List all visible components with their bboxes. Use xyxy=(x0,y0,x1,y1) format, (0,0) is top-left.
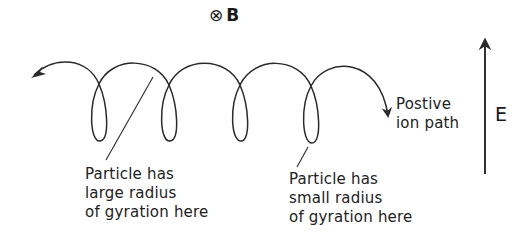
b-field-label: ⊗B xyxy=(209,5,239,25)
annotation-line: Particle has xyxy=(85,165,209,184)
annotation-line: small radius xyxy=(289,189,413,208)
annotation-line: of gyration here xyxy=(85,203,209,222)
b-field-text: B xyxy=(226,5,239,25)
leader-line-small-radius xyxy=(297,147,308,167)
ion-path-label: Postive ion path xyxy=(396,95,459,133)
small-radius-annotation: Particle has small radius of gyration he… xyxy=(289,170,413,227)
annotation-line: of gyration here xyxy=(289,208,413,227)
large-radius-annotation: Particle has large radius of gyration he… xyxy=(85,165,209,222)
ion-path-curve xyxy=(34,62,388,143)
ion-path-label-line2: ion path xyxy=(396,114,459,133)
leader-line-large-radius xyxy=(106,77,153,160)
ion-path-label-line1: Postive xyxy=(396,95,459,114)
annotation-line: large radius xyxy=(85,184,209,203)
into-page-icon: ⊗ xyxy=(209,5,223,25)
annotation-line: Particle has xyxy=(289,170,413,189)
e-field-label: E xyxy=(495,103,507,125)
